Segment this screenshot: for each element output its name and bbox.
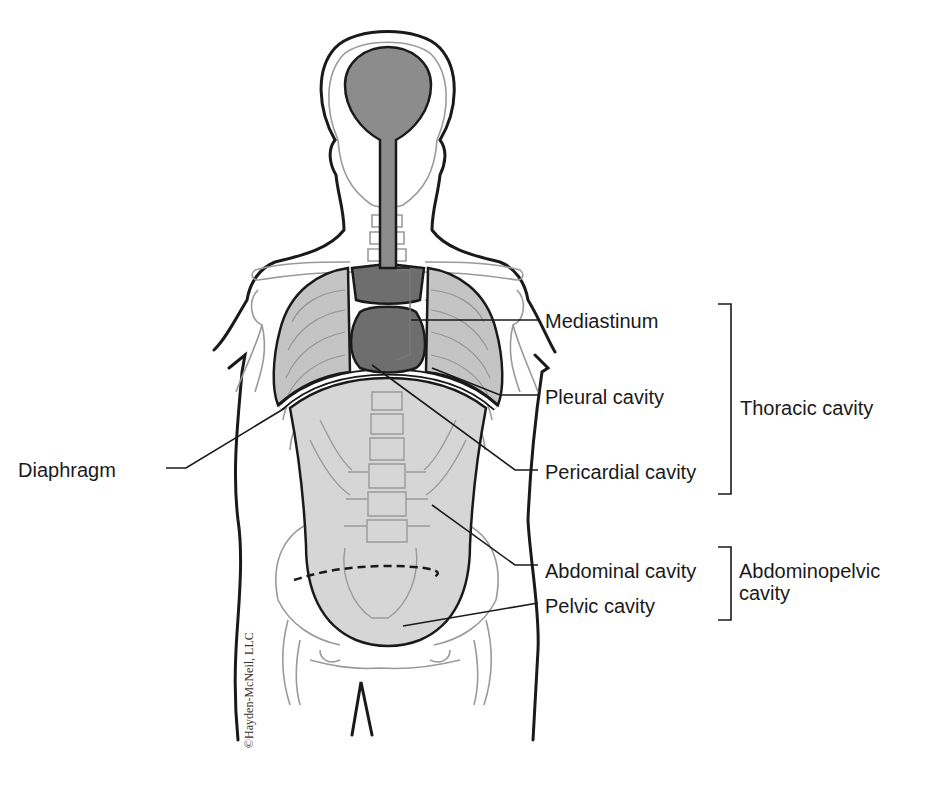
dorsal-cavity: [345, 47, 431, 268]
label-pericardial-cavity: Pericardial cavity: [545, 461, 696, 483]
label-mediastinum: Mediastinum: [545, 310, 658, 332]
body-cavities-diagram: Mediastinum Pleural cavity Pericardial c…: [0, 0, 949, 789]
group-label-thoracic-cavity: Thoracic cavity: [740, 397, 873, 419]
label-diaphragm: Diaphragm: [18, 459, 116, 481]
label-abdominal-cavity: Abdominal cavity: [545, 560, 696, 582]
group-label-abdominopelvic-line1: Abdominopelvic: [739, 560, 880, 582]
pericardial-cavity: [351, 307, 425, 373]
label-pelvic-cavity: Pelvic cavity: [545, 595, 655, 617]
mediastinum: [352, 265, 424, 304]
abdominopelvic-bracket: [718, 547, 731, 620]
abdominopelvic-cavity: [290, 378, 486, 646]
brackets: [718, 304, 731, 620]
leader-diaphragm: [166, 408, 285, 468]
label-pleural-cavity: Pleural cavity: [545, 386, 664, 408]
anatomy-figure: [0, 0, 949, 789]
group-label-abdominopelvic-line2: cavity: [739, 582, 790, 604]
copyright-text: ©Hayden-McNeil, LLC: [242, 632, 257, 748]
thoracic-bracket: [718, 304, 731, 494]
